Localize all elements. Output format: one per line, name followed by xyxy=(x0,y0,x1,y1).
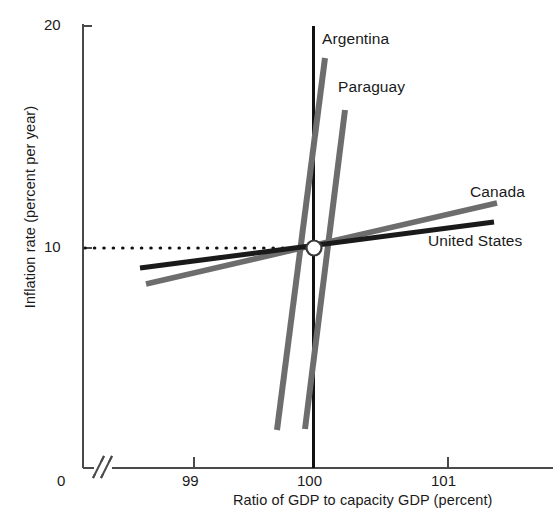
chart-figure: Inflation rate (percent per year) Ratio … xyxy=(0,0,553,522)
x-tick-label-99: 99 xyxy=(182,472,199,489)
x-tick-label-100: 100 xyxy=(297,472,322,489)
intersection-marker xyxy=(307,241,322,256)
series-label-paraguay: Paraguay xyxy=(338,78,405,96)
axis-break-icon xyxy=(93,456,112,478)
x-tick-label-101: 101 xyxy=(431,472,456,489)
series-label-canada: Canada xyxy=(470,183,525,201)
y-tick-label-20: 20 xyxy=(44,16,61,33)
series-label-united-states: United States xyxy=(428,232,522,250)
y-axis-title: Inflation rate (percent per year) xyxy=(22,42,44,372)
plot-area xyxy=(0,0,553,522)
x-axis-title: Ratio of GDP to capacity GDP (percent) xyxy=(233,492,493,508)
y-tick-label-10: 10 xyxy=(44,238,61,255)
x-tick-label-0: 0 xyxy=(57,472,65,489)
series-label-argentina: Argentina xyxy=(322,30,389,48)
